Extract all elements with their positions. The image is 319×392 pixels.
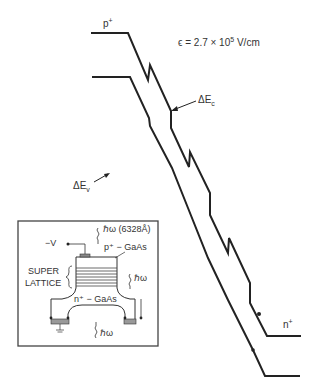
superlattice-label-2: LATTICE: [25, 278, 61, 288]
p-layer-label: p⁺ − GaAs: [104, 242, 147, 252]
delta-ec-label: ΔEc: [198, 94, 215, 107]
delta-ev-label: ΔEv: [73, 180, 90, 193]
bottom-emission-label: ℏω: [100, 328, 113, 338]
voltage-label: −V: [45, 238, 56, 248]
laser-label: ℏω (6328Å): [103, 224, 151, 234]
n-layer-label: n⁺ − GaAs: [74, 294, 117, 304]
n-plus-label: n+: [283, 318, 293, 330]
p-plus-label: p+: [103, 17, 113, 29]
band-diagram: [0, 0, 319, 392]
superlattice-label-1: SUPER: [28, 266, 59, 276]
emission-label: ℏω: [134, 273, 147, 283]
field-label: ϵ = 2.7 × 105 V/cm: [178, 36, 260, 48]
